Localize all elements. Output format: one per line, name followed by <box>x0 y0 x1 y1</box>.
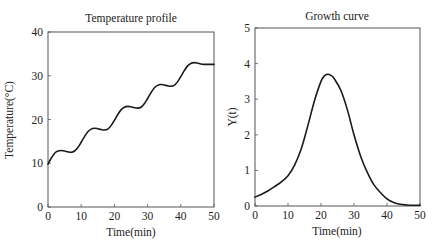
y-tick-label: 0 <box>244 200 250 212</box>
y-tick-label: 10 <box>32 157 44 169</box>
x-tick-label: 0 <box>45 210 51 222</box>
x-tick-label: 20 <box>109 210 121 222</box>
y-tick-label: 2 <box>244 129 250 141</box>
y-axis-ticks: 012345 <box>244 22 258 212</box>
x-axis-label: Time(min) <box>106 226 156 239</box>
plot-area-frame <box>48 32 214 207</box>
temperature-profile-chart: Temperature profile 01020304050 01020304… <box>3 12 220 239</box>
y-axis-label: Y(t) <box>226 107 239 126</box>
y-tick-label: 40 <box>32 26 44 38</box>
x-tick-label: 40 <box>381 209 393 221</box>
y-tick-label: 30 <box>32 70 44 82</box>
plot-area-frame <box>255 28 420 206</box>
x-tick-label: 30 <box>142 210 154 222</box>
figure: Temperature profile 01020304050 01020304… <box>0 0 442 247</box>
chart-title: Temperature profile <box>85 12 176 25</box>
y-tick-label: 5 <box>244 22 250 34</box>
y-tick-label: 0 <box>37 201 43 213</box>
y-tick-label: 1 <box>244 164 250 176</box>
y-tick-label: 20 <box>32 114 44 126</box>
x-tick-label: 30 <box>348 209 360 221</box>
x-tick-label: 50 <box>414 209 426 221</box>
x-tick-label: 10 <box>75 210 87 222</box>
y-tick-label: 4 <box>244 58 250 70</box>
y-tick-label: 3 <box>244 93 250 105</box>
x-tick-label: 0 <box>252 209 258 221</box>
growth-line <box>255 74 420 205</box>
x-tick-label: 50 <box>208 210 220 222</box>
chart-title: Growth curve <box>305 10 369 22</box>
y-axis-label: Temperature(°C) <box>3 81 16 159</box>
x-axis-label: Time(min) <box>312 225 362 238</box>
temperature-line <box>48 63 214 165</box>
x-tick-label: 20 <box>315 209 327 221</box>
x-tick-label: 10 <box>282 209 294 221</box>
x-tick-label: 40 <box>175 210 187 222</box>
growth-curve-chart: Growth curve 01020304050 012345 Time(min… <box>226 10 426 238</box>
